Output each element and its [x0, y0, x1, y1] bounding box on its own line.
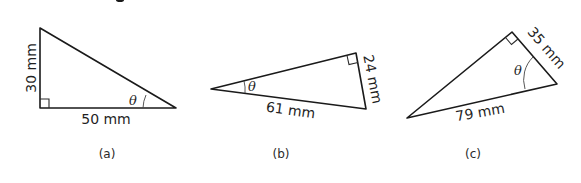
- caption-c: (c): [465, 147, 481, 161]
- theta-label-b: θ: [248, 79, 256, 94]
- side-label-a-horizontal: 50 mm: [81, 111, 131, 127]
- side-label-c-hypotenuse: 79 mm: [454, 100, 506, 124]
- triangle-a: θ 30 mm 50 mm (a): [23, 28, 176, 161]
- triangles-figure: θ 30 mm 50 mm (a) θ 24 mm 61 mm (b) θ 35…: [0, 0, 581, 183]
- side-label-c-short: 35 mm: [524, 24, 569, 72]
- theta-label-c: θ: [514, 63, 522, 78]
- triangle-b-outline: [211, 53, 366, 109]
- triangle-a-outline: [40, 28, 176, 108]
- side-label-a-vertical: 30 mm: [23, 43, 39, 93]
- right-angle-marker-c: [506, 38, 519, 45]
- triangle-b: θ 24 mm 61 mm (b): [211, 53, 385, 161]
- cropped-heading-fragment: [116, 0, 124, 2]
- triangle-c: θ 35 mm 79 mm (c): [407, 24, 569, 161]
- theta-label-a: θ: [129, 93, 137, 108]
- angle-arc-b: [244, 81, 245, 93]
- angle-arc-c: [524, 57, 533, 89]
- caption-a: (a): [99, 147, 116, 161]
- caption-b: (b): [273, 147, 290, 161]
- angle-arc-a: [143, 95, 146, 108]
- right-angle-marker-a: [40, 99, 49, 108]
